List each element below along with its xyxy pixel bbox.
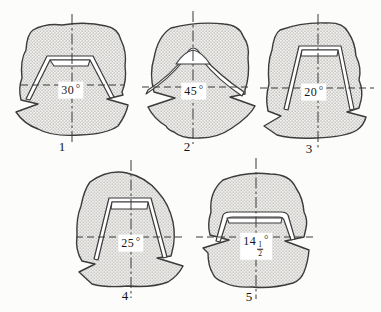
- figure-4-number: 4: [122, 288, 129, 304]
- diagram-canvas: 30° 1 45° 2 20° 3: [0, 0, 381, 312]
- figure-3-number: 3: [306, 141, 313, 157]
- figure-5-angle-label: 1412°: [240, 233, 272, 260]
- groove-flat-face: [111, 202, 148, 209]
- figure-3: 20° 3: [256, 8, 378, 155]
- figure-5: 1412° 5: [194, 156, 316, 303]
- degree-sign: °: [136, 235, 141, 247]
- angle-value: 20: [304, 85, 317, 99]
- figure-2-drawing: [138, 8, 256, 150]
- degree-sign: °: [199, 83, 204, 95]
- groove-flat-face: [50, 60, 90, 66]
- figure-5-number: 5: [246, 289, 253, 305]
- angle-value: 45: [184, 84, 197, 98]
- angle-value: 25: [121, 236, 134, 250]
- degree-sign: °: [319, 84, 324, 96]
- figure-1-number: 1: [59, 139, 66, 155]
- figure-5-drawing: [194, 156, 316, 303]
- figure-2-angle-label: 45°: [181, 83, 206, 100]
- figure-3-angle-label: 20°: [301, 84, 326, 101]
- figure-4-angle-label: 25°: [118, 235, 143, 252]
- figure-3-drawing: [256, 8, 378, 155]
- degree-sign: °: [76, 82, 81, 94]
- cross-section-body: [264, 23, 366, 138]
- angle-fraction: 12: [257, 241, 263, 259]
- figure-1-drawing: [14, 8, 136, 150]
- figure-2-number: 2: [184, 139, 191, 155]
- groove-flat-face: [227, 218, 282, 223]
- figure-2: 45° 2: [138, 8, 256, 150]
- degree-sign: °: [264, 233, 269, 245]
- cross-section-body: [77, 172, 183, 287]
- figure-1: 30° 1: [14, 8, 136, 150]
- figure-4-drawing: [68, 156, 190, 303]
- figure-1-angle-label: 30°: [58, 82, 83, 99]
- groove-flat-face: [301, 50, 338, 56]
- figure-4: 25° 4: [68, 156, 190, 303]
- angle-value: 30: [61, 83, 74, 97]
- angle-value: 14: [243, 234, 256, 248]
